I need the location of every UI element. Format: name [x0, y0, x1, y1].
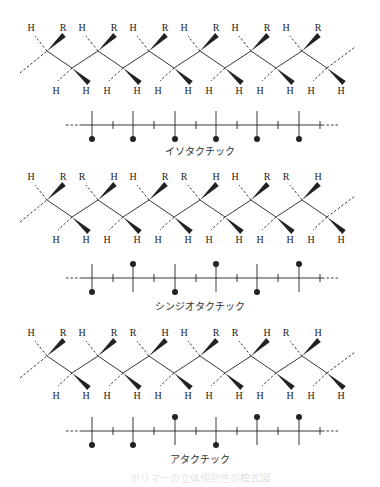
atom-label: H — [103, 85, 110, 96]
hashed-bond — [35, 36, 47, 51]
hashed-bond — [239, 36, 251, 51]
atom-label: R — [213, 327, 220, 338]
hashed-bond — [160, 373, 174, 386]
wedge-bond — [251, 182, 270, 200]
hashed-bond — [262, 217, 276, 230]
backbone-bond — [276, 356, 302, 373]
hashed-bond — [137, 36, 149, 51]
hashed-bond — [239, 341, 251, 356]
substituent-dot — [213, 261, 219, 267]
backbone-bond — [251, 356, 276, 373]
hashed-bond — [188, 341, 200, 356]
hashed-bond — [58, 217, 72, 230]
wedge-bond — [149, 33, 168, 51]
backbone-bond — [302, 51, 327, 68]
atom-label: R — [79, 171, 86, 182]
atom-label: H — [307, 234, 314, 245]
wedge-bond — [251, 33, 270, 51]
wedge-bond — [327, 373, 346, 390]
wedge-bond — [123, 217, 142, 234]
backbone-bond — [174, 200, 200, 217]
backbone-bond — [200, 51, 225, 68]
atom-label: H — [180, 327, 187, 338]
hashed-bond — [86, 185, 98, 200]
wedge-bond — [98, 338, 117, 356]
hashed-bond — [109, 373, 123, 386]
atom-label: H — [103, 390, 110, 401]
wedge-bond — [225, 68, 244, 85]
chain-end-dashed — [20, 356, 47, 378]
atom-label: H — [133, 85, 140, 96]
atom-label: H — [154, 390, 161, 401]
substituent-dot — [296, 261, 302, 267]
backbone-bond — [225, 51, 251, 68]
backbone-bond — [174, 51, 200, 68]
atom-label: H — [154, 234, 161, 245]
wedge-bond — [123, 373, 142, 390]
backbone-bond — [225, 200, 251, 217]
hashed-bond — [290, 36, 302, 51]
backbone-bond — [123, 51, 149, 68]
atom-label: H — [133, 234, 140, 245]
tacticity-diagram: HRHHHRHHHRHHHRHHHRHHHRHHイソタクチックHRHHRHHHH… — [0, 0, 380, 487]
projection-isotactic — [66, 111, 338, 142]
atom-label: H — [212, 171, 219, 182]
atom-label: H — [314, 171, 321, 182]
atom-label: R — [111, 327, 118, 338]
atom-label: H — [180, 22, 187, 33]
atom-label: H — [129, 171, 136, 182]
atom-label: H — [256, 85, 263, 96]
wedge-bond — [72, 217, 91, 234]
hashed-bond — [137, 341, 149, 356]
atom-label: H — [27, 171, 34, 182]
atom-label: H — [103, 234, 110, 245]
substituent-dot — [296, 136, 302, 142]
hashed-bond — [290, 185, 302, 200]
wedge-bond — [47, 33, 66, 51]
backbone-bond — [98, 51, 123, 68]
atom-label: H — [184, 85, 191, 96]
hashed-bond — [160, 68, 174, 81]
hashed-bond — [137, 185, 149, 200]
panel-label: シンジオタクチック — [155, 301, 245, 312]
atom-label: H — [154, 85, 161, 96]
atom-label: H — [205, 234, 212, 245]
atom-label: H — [314, 327, 321, 338]
hashed-bond — [313, 68, 327, 81]
atom-label: R — [264, 171, 271, 182]
backbone-bond — [47, 200, 72, 217]
atom-label: H — [282, 22, 289, 33]
hashed-bond — [35, 341, 47, 356]
backbone-bond — [98, 200, 123, 217]
hashed-bond — [160, 217, 174, 230]
substituent-dot — [89, 442, 95, 448]
wedge-bond — [174, 217, 193, 234]
atom-label: H — [235, 234, 242, 245]
hashed-bond — [262, 373, 276, 386]
wedge-bond — [302, 338, 321, 356]
atom-label: H — [256, 390, 263, 401]
wedge-bond — [174, 373, 193, 390]
atom-label: R — [264, 22, 271, 33]
hashed-bond — [86, 341, 98, 356]
panel-label: イソタクチック — [165, 146, 235, 157]
wedge-bond — [327, 217, 346, 234]
substituent-dot — [89, 289, 95, 295]
hashed-bond — [35, 185, 47, 200]
atom-label: H — [78, 22, 85, 33]
substituent-dot — [130, 261, 136, 267]
atom-label: H — [27, 22, 34, 33]
chain-end-dashed — [327, 196, 355, 217]
hashed-bond — [86, 36, 98, 51]
substituent-dot — [172, 136, 178, 142]
wedge-bond — [200, 182, 219, 200]
substituent-dot — [130, 442, 136, 448]
backbone-bond — [72, 356, 98, 373]
hashed-bond — [188, 185, 200, 200]
hashed-bond — [290, 341, 302, 356]
atom-label: H — [52, 390, 59, 401]
backbone-bond — [251, 200, 276, 217]
atom-label: R — [283, 327, 290, 338]
wedge-bond — [276, 68, 295, 85]
backbone-bond — [174, 356, 200, 373]
